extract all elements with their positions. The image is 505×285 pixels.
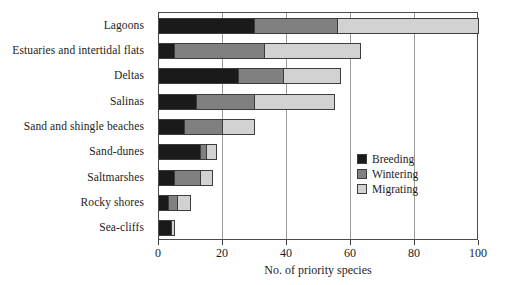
bar-segment-migrating [284,68,342,84]
bar-segment-wintering [185,119,223,135]
stacked-bar-chart: LagoonsEstuaries and intertidal flatsDel… [0,0,505,285]
bar-segment-wintering [169,195,179,211]
x-tick-label: 0 [138,246,178,260]
bar-segment-wintering [239,68,284,84]
bar-row [159,170,479,186]
bar-row [159,43,479,59]
bar-segment-breeding [159,68,239,84]
bar-segment-breeding [159,119,185,135]
category-label: Sand-dunes [0,145,144,157]
legend-item: Breeding [357,152,418,166]
x-tick-label: 20 [202,246,242,260]
bar-segment-migrating [207,144,217,160]
bar-segment-wintering [255,18,338,34]
category-label: Estuaries and intertidal flats [0,44,144,56]
bar-row [159,144,479,160]
bar-row [159,220,479,236]
legend: BreedingWinteringMigrating [357,152,418,197]
legend-label: Breeding [372,153,414,165]
bar-row [159,18,479,34]
x-tick [222,240,223,245]
bar-segment-wintering [197,94,255,110]
x-tick [350,240,351,245]
x-tick [478,240,479,245]
bar-segment-migrating [201,170,214,186]
category-label: Saltmarshes [0,171,144,183]
x-tick-label: 80 [394,246,434,260]
bar-segment-migrating [223,119,255,135]
legend-item: Wintering [357,167,418,181]
bar-segment-breeding [159,18,255,34]
category-label: Sea-cliffs [0,221,144,233]
category-label: Sand and shingle beaches [0,120,144,132]
category-label: Deltas [0,69,144,81]
x-tick [286,240,287,245]
category-label: Salinas [0,95,144,107]
category-label: Rocky shores [0,196,144,208]
bar-segment-breeding [159,195,169,211]
bar-segment-breeding [159,43,175,59]
bar-segment-migrating [255,94,335,110]
bar-row [159,195,479,211]
bar-row [159,68,479,84]
bar-segment-migrating [265,43,361,59]
bar-segment-breeding [159,220,172,236]
x-tick-label: 100 [458,246,498,260]
legend-label: Wintering [372,168,418,180]
legend-swatch-icon [357,154,367,164]
plot-area [158,12,478,240]
bar-row [159,94,479,110]
category-axis: LagoonsEstuaries and intertidal flatsDel… [0,12,150,240]
bar-segment-migrating [338,18,479,34]
legend-item: Migrating [357,182,418,196]
bar-segment-migrating [172,220,175,236]
x-axis-title: No. of priority species [158,263,478,278]
bar-segment-migrating [178,195,191,211]
legend-swatch-icon [357,184,367,194]
x-tick [414,240,415,245]
bar-segment-breeding [159,94,197,110]
legend-swatch-icon [357,169,367,179]
x-tick [158,240,159,245]
legend-label: Migrating [372,183,418,195]
bar-segment-breeding [159,144,201,160]
category-label: Lagoons [0,19,144,31]
bar-row [159,119,479,135]
bar-segment-wintering [175,43,265,59]
bar-segment-breeding [159,170,175,186]
x-tick-label: 60 [330,246,370,260]
x-tick-label: 40 [266,246,306,260]
bar-segment-wintering [175,170,201,186]
